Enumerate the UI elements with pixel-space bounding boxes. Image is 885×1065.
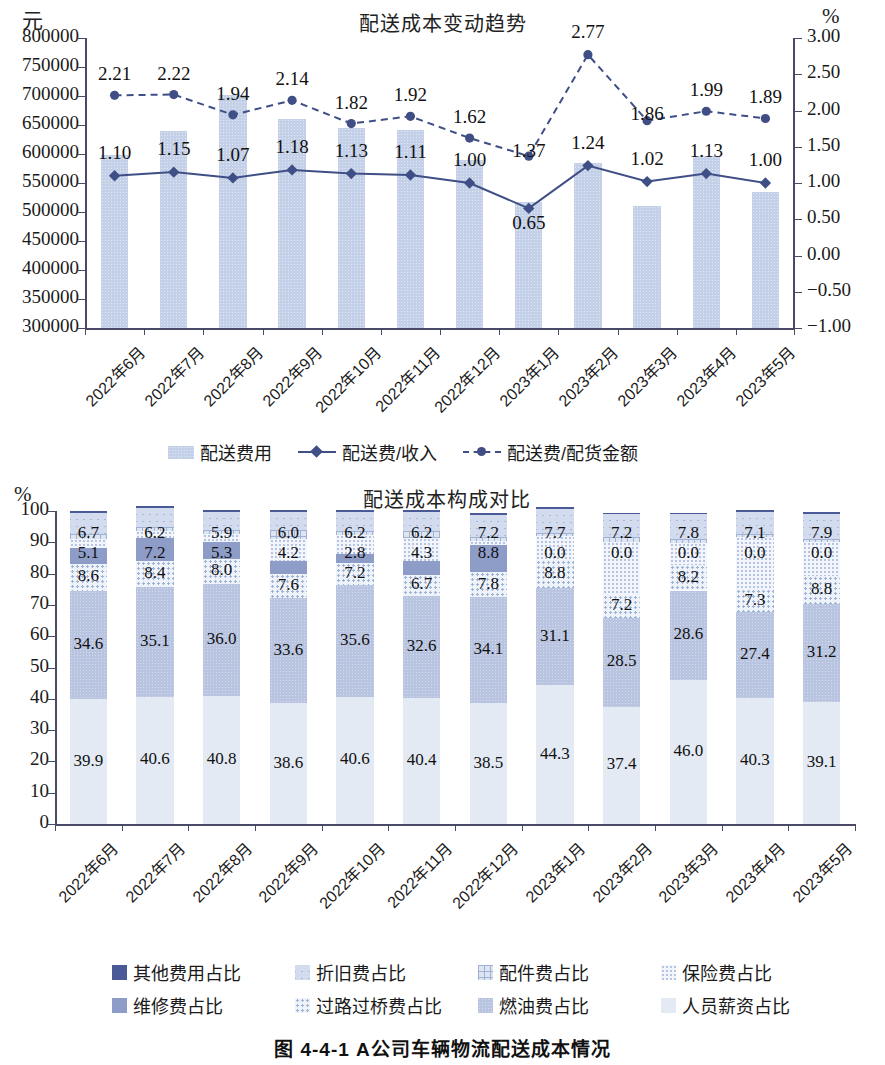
top-chart-ratio-goods-line-marker bbox=[406, 112, 415, 121]
bottom-chart-x-tick bbox=[588, 824, 589, 831]
bottom-chart-y-tick bbox=[48, 730, 55, 731]
top-chart-goods-ratio-label: 1.94 bbox=[207, 83, 259, 105]
bottom-chart-segment-label: 7.7 bbox=[530, 523, 579, 543]
bottom-chart-legend-label: 人员薪资占比 bbox=[682, 992, 790, 1018]
bottom-chart-segment-label: 7.2 bbox=[464, 523, 513, 543]
bottom-chart-segment-label: 39.1 bbox=[797, 752, 846, 772]
bottom-chart-segment-label: 0.0 bbox=[664, 543, 713, 563]
delivery-cost-trend-chart: 元 % 配送成本变动趋势 300000350000400000450000500… bbox=[0, 0, 885, 470]
top-chart-goods-ratio-label: 2.21 bbox=[89, 63, 141, 85]
bottom-chart-segment-label: 5.9 bbox=[197, 523, 246, 543]
top-chart-income-ratio-label: 1.00 bbox=[444, 149, 496, 171]
bottom-chart-segment bbox=[536, 507, 573, 509]
top-chart-y2-tick bbox=[795, 256, 802, 257]
top-chart-y-tick bbox=[78, 270, 85, 271]
top-chart-y-tick bbox=[78, 183, 85, 184]
bottom-chart-segment-label: 37.4 bbox=[597, 754, 646, 774]
bottom-chart-legend-label: 配件费占比 bbox=[499, 959, 589, 985]
bottom-chart-y-tick bbox=[48, 542, 55, 543]
top-chart-y2-tick bbox=[795, 292, 802, 293]
top-chart-ratio-income-line-marker bbox=[168, 166, 179, 177]
bottom-chart-segment-label: 31.2 bbox=[797, 642, 846, 662]
top-chart-legend-item: 配送费用 bbox=[168, 439, 272, 465]
top-chart-income-ratio-label: 1.15 bbox=[148, 138, 200, 160]
top-chart-y2-tick bbox=[795, 328, 802, 329]
top-chart-income-ratio-label: 1.13 bbox=[325, 140, 377, 162]
bottom-chart-x-tick bbox=[855, 824, 856, 831]
bottom-chart-segment-label: 0.0 bbox=[730, 543, 779, 563]
bottom-chart-segment-label: 8.4 bbox=[130, 563, 179, 583]
top-chart-y-tick bbox=[78, 38, 85, 39]
top-chart-y2-tick-label: 2.50 bbox=[807, 61, 840, 83]
top-chart-goods-ratio-label: 1.99 bbox=[680, 79, 732, 101]
bottom-chart-segment-label: 40.6 bbox=[330, 749, 379, 769]
bottom-chart-segment-label: 4.2 bbox=[264, 543, 313, 563]
top-chart-y-tick bbox=[78, 299, 85, 300]
bottom-chart-segment-label: 5.3 bbox=[197, 543, 246, 563]
top-chart-x-tick bbox=[440, 328, 441, 335]
bottom-chart-segment bbox=[403, 510, 440, 512]
legend-color-swatch-icon bbox=[112, 965, 127, 980]
bottom-chart-y-tick-label: 50 bbox=[3, 655, 49, 677]
top-chart-x-tick bbox=[203, 328, 204, 335]
bottom-chart-segment-label: 35.1 bbox=[130, 631, 179, 651]
bottom-chart-segment-label: 6.7 bbox=[64, 523, 113, 543]
top-chart-ratio-goods-line-marker bbox=[465, 133, 474, 142]
bottom-chart-x-tick bbox=[455, 824, 456, 831]
top-chart-legend-item: 配送费/配货金额 bbox=[463, 439, 638, 465]
legend-line-swatch-icon bbox=[298, 445, 336, 459]
bottom-chart-segment-label: 44.3 bbox=[530, 744, 579, 764]
top-chart-y2-tick-label: 3.00 bbox=[807, 25, 840, 47]
bottom-chart-y-tick bbox=[48, 636, 55, 637]
bottom-chart-segment-label: 8.2 bbox=[664, 567, 713, 587]
figure-page: 元 % 配送成本变动趋势 300000350000400000450000500… bbox=[0, 0, 885, 1065]
bottom-chart-legend-item: 过路过桥费占比 bbox=[295, 992, 470, 1018]
bottom-chart-segment-label: 28.5 bbox=[597, 651, 646, 671]
top-chart-legend-label: 配送费/配货金额 bbox=[507, 439, 638, 465]
delivery-cost-composition-chart: % 配送成本构成对比 010203040506070809010039.934.… bbox=[0, 478, 885, 948]
bottom-chart-segment-label: 7.2 bbox=[130, 543, 179, 563]
top-chart-goods-ratio-label: 1.86 bbox=[621, 103, 673, 125]
bottom-chart-segment-label: 39.9 bbox=[64, 751, 113, 771]
top-chart-plot-area: 3000003500004000004500005000005500006000… bbox=[85, 38, 795, 328]
top-chart-legend-label: 配送费用 bbox=[200, 439, 272, 465]
top-chart-x-tick bbox=[618, 328, 619, 335]
top-chart-y2-tick-label: 0.00 bbox=[807, 243, 840, 265]
top-chart-income-ratio-label: 0.65 bbox=[503, 212, 555, 234]
bottom-chart-y-axis bbox=[55, 511, 57, 824]
top-chart-y-tick bbox=[78, 67, 85, 68]
bottom-chart-segment-label: 7.1 bbox=[730, 523, 779, 543]
top-chart-x-tick bbox=[381, 328, 382, 335]
top-chart-y-tick-label: 750000 bbox=[1, 54, 79, 76]
top-chart-ratio-goods-line-marker bbox=[761, 114, 770, 123]
bottom-chart-legend-item: 其他费用占比 bbox=[112, 959, 287, 985]
top-chart-goods-ratio-label: 2.14 bbox=[266, 68, 318, 90]
bottom-chart-x-tick bbox=[255, 824, 256, 831]
bottom-chart-legend-row-1: 其他费用占比折旧费占比配件费占比保险费占比 bbox=[112, 958, 872, 986]
bottom-chart-y-tick-label: 90 bbox=[3, 529, 49, 551]
bottom-chart-x-tick bbox=[522, 824, 523, 831]
top-chart-ratio-income-line-marker bbox=[405, 169, 416, 180]
bottom-chart-segment-label: 4.3 bbox=[397, 543, 446, 563]
bottom-chart-x-tick bbox=[122, 824, 123, 831]
top-chart-y-tick bbox=[78, 241, 85, 242]
top-chart-y-tick-label: 350000 bbox=[1, 286, 79, 308]
top-chart-ratio-income-line-path bbox=[115, 166, 766, 209]
top-chart-income-ratio-label: 1.07 bbox=[207, 144, 259, 166]
bottom-chart-y-tick bbox=[48, 605, 55, 606]
top-chart-y2-tick bbox=[795, 111, 802, 112]
top-chart-y2-tick-label: −1.00 bbox=[807, 315, 851, 337]
bottom-chart-legend-item: 人员薪资占比 bbox=[661, 992, 836, 1018]
bottom-chart-segment-label: 32.6 bbox=[397, 636, 446, 656]
legend-color-swatch-icon bbox=[478, 965, 493, 980]
bottom-chart-legend-label: 燃油费占比 bbox=[499, 992, 589, 1018]
top-chart-title: 配送成本变动趋势 bbox=[293, 8, 593, 37]
bottom-chart-segment bbox=[203, 510, 240, 512]
bottom-chart-segment-label: 7.2 bbox=[597, 523, 646, 543]
top-chart-y-tick bbox=[78, 154, 85, 155]
top-chart-goods-ratio-label: 2.77 bbox=[562, 21, 614, 43]
bottom-chart-segment-label: 36.0 bbox=[197, 629, 246, 649]
bottom-chart-segment-label: 31.1 bbox=[530, 626, 579, 646]
top-chart-ratio-income-line-marker bbox=[760, 177, 771, 188]
bottom-chart-segment-label: 6.7 bbox=[397, 574, 446, 594]
